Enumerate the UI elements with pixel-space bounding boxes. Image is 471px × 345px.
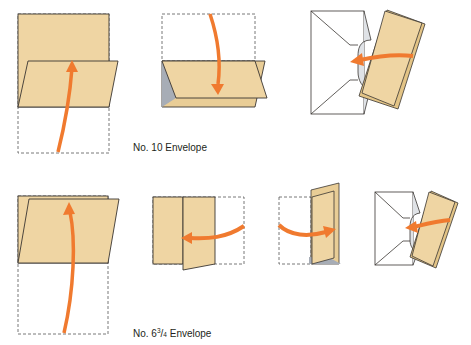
no634-step2-fold-left: [153, 197, 244, 270]
folded-flap: [312, 191, 334, 264]
folded-flap: [183, 197, 215, 270]
no634-step4-insert: [375, 191, 458, 268]
caption-no634-envelope: No. 63/4 Envelope: [133, 327, 211, 339]
fraction-numerator: 3: [157, 327, 161, 334]
folding-diagram: [0, 0, 471, 345]
caption-no10-envelope: No. 10 Envelope: [133, 142, 207, 153]
no634-step3-fold-right: [279, 183, 341, 264]
no10-step3-insert: [311, 10, 425, 114]
no10-step1-fold-up: [18, 14, 118, 153]
folded-flap: [162, 61, 267, 98]
dashed-outline: [162, 14, 255, 61]
sheet-left: [153, 197, 183, 264]
caption-suffix: Envelope: [167, 328, 211, 339]
no634-step1-fold-up: [18, 196, 119, 334]
caption-prefix: No. 6: [133, 328, 157, 339]
no10-step2-fold-down: [162, 14, 267, 107]
